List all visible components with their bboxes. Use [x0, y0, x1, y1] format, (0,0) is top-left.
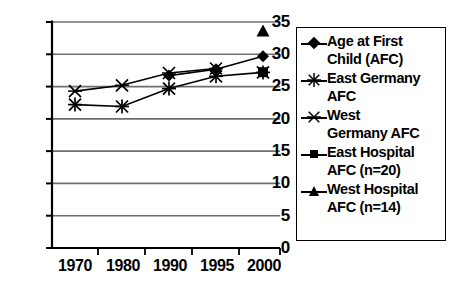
legend-key-asterisk	[301, 70, 327, 91]
ytick-label: 20	[250, 110, 290, 127]
legend-label: West Germany AFC	[327, 106, 419, 142]
legend-key-diamond	[301, 33, 327, 54]
ytick-label: 0	[250, 239, 290, 256]
series-marker	[258, 67, 268, 77]
legend-item-west-germany-afc: West Germany AFC	[297, 106, 445, 142]
ytick-label: 10	[250, 174, 290, 191]
ytick-label: 25	[250, 77, 290, 94]
ytick-label: 15	[250, 142, 290, 159]
legend-item-age-at-first-child: Age at First Child (AFC)	[297, 32, 445, 68]
legend-label: East Germany AFC	[327, 69, 420, 105]
gridlines	[52, 22, 280, 216]
legend-label: West Hospital AFC (n=14)	[327, 180, 418, 216]
chart-legend: Age at First Child (AFC) East Germany AF…	[296, 27, 446, 241]
square-marker-icon	[310, 150, 318, 158]
asterisk-marker-icon	[307, 73, 322, 88]
legend-key-triangle	[301, 181, 327, 202]
legend-key-square	[301, 144, 327, 165]
ytick-label: 30	[250, 45, 290, 62]
legend-label: Age at First Child (AFC)	[327, 32, 403, 68]
diamond-marker-icon	[308, 37, 321, 50]
legend-key-x-star	[301, 107, 327, 128]
xtick-label: 2000	[234, 258, 294, 274]
ytick-label: 35	[250, 13, 290, 30]
chart-figure: 35 30 25 20 15 10 5 0 1970 1980 1990 199…	[0, 0, 460, 295]
legend-label: East Hospital AFC (n=20)	[327, 143, 414, 179]
legend-item-east-germany-afc: East Germany AFC	[297, 69, 445, 105]
x-star-marker-icon	[307, 110, 322, 125]
legend-item-west-hospital-afc: West Hospital AFC (n=14)	[297, 180, 445, 216]
plot-area: 35 30 25 20 15 10 5 0 1970 1980 1990 199…	[0, 0, 290, 295]
plot-canvas	[0, 0, 290, 295]
triangle-marker-icon	[309, 186, 319, 196]
legend-item-east-hospital-afc: East Hospital AFC (n=20)	[297, 143, 445, 179]
series-east-hospital-afc	[258, 67, 268, 77]
ytick-label: 5	[250, 207, 290, 224]
